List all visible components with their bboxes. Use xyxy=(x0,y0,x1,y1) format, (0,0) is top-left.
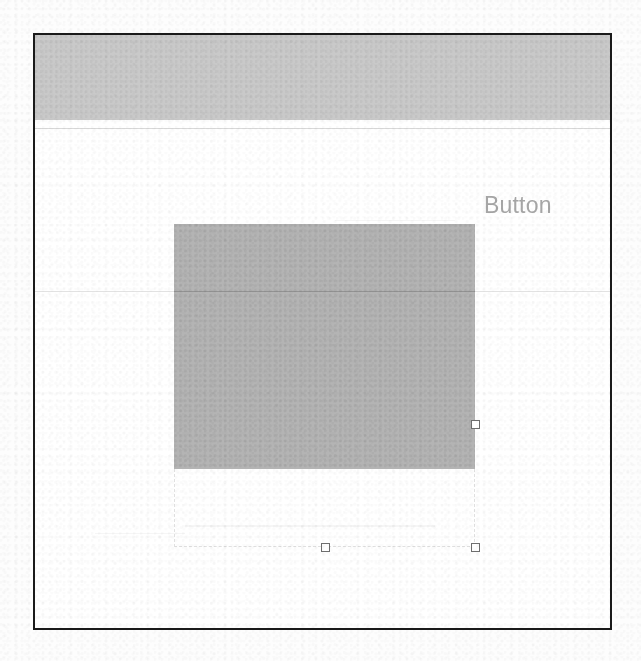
scanned-page: Button xyxy=(0,0,641,661)
scan-artifact-smudge xyxy=(95,533,185,534)
resize-handle-bottom-center[interactable] xyxy=(321,543,330,552)
header-banner xyxy=(35,35,610,120)
resize-handle-bottom-right[interactable] xyxy=(471,543,480,552)
header-divider-rule xyxy=(35,128,610,129)
button-label[interactable]: Button xyxy=(484,191,552,219)
canvas-guide-over-shape xyxy=(174,291,475,292)
selected-rectangle-shape[interactable] xyxy=(174,224,475,469)
resize-handle-middle-right[interactable] xyxy=(471,420,480,429)
design-canvas-window: Button xyxy=(33,33,612,630)
scan-artifact-smudge xyxy=(335,220,455,221)
